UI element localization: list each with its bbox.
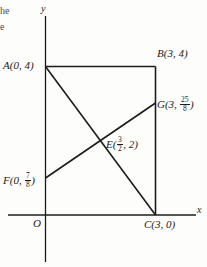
origin-label: O xyxy=(33,218,41,229)
point-label-f-prefix: F(0, xyxy=(3,174,24,186)
point-label-b: B(3, 4) xyxy=(157,48,188,59)
point-label-f: F(0, 78) xyxy=(3,172,35,188)
point-label-g: G(3, 258) xyxy=(157,96,194,112)
point-label-e-suffix: , 2) xyxy=(123,138,138,150)
point-label-f-suffix: ) xyxy=(31,174,35,186)
fraction-denominator: 8 xyxy=(180,105,190,113)
segment-fg xyxy=(46,103,156,178)
y-axis-label: y xyxy=(41,4,45,14)
fraction-denominator: 2 xyxy=(117,145,123,153)
fraction-25-8: 258 xyxy=(180,96,190,112)
point-label-e-prefix: E( xyxy=(106,138,116,150)
fraction-3-2: 32 xyxy=(117,136,123,152)
point-label-g-suffix: ) xyxy=(190,98,194,110)
fraction-denominator: 8 xyxy=(25,181,31,189)
coordinate-geometry-figure: he e y x O A(0, 4) B(3, 4) G(3, 258) E(3… xyxy=(0,0,207,267)
x-axis-label: x xyxy=(197,205,201,215)
diagram-canvas xyxy=(0,0,207,267)
point-label-a: A(0, 4) xyxy=(3,60,34,71)
point-label-g-prefix: G(3, xyxy=(157,98,180,110)
point-label-c: C(3, 0) xyxy=(144,219,175,230)
point-label-e: E(32, 2) xyxy=(106,136,138,152)
fraction-7-8: 78 xyxy=(25,172,31,188)
